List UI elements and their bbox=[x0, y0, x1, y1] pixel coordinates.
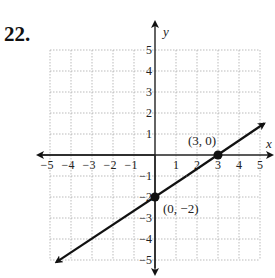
x-tick-label: −2 bbox=[104, 158, 117, 172]
x-tick-label: 5 bbox=[257, 158, 263, 172]
y-tick-label: −1 bbox=[139, 169, 152, 183]
point-marker bbox=[151, 193, 160, 202]
x-tick-label: 1 bbox=[173, 158, 179, 172]
x-tick-label: −1 bbox=[125, 158, 138, 172]
plotted-line bbox=[187, 124, 265, 177]
y-tick-label: 2 bbox=[146, 106, 152, 120]
labeled-points: (3, 0)(0, −2) bbox=[151, 133, 223, 216]
y-tick-label: 5 bbox=[146, 43, 152, 57]
point-label: (0, −2) bbox=[163, 201, 199, 216]
y-axis-label: y bbox=[161, 24, 169, 39]
y-tick-label: −3 bbox=[139, 211, 152, 225]
point-marker bbox=[214, 151, 223, 160]
point-label: (3, 0) bbox=[188, 133, 216, 148]
x-tick-label: −5 bbox=[41, 158, 54, 172]
x-axis-label: x bbox=[265, 136, 272, 151]
y-tick-label: −4 bbox=[139, 232, 152, 246]
x-tick-label: −4 bbox=[62, 158, 75, 172]
x-tick-label: 3 bbox=[215, 158, 221, 172]
coordinate-plane: x y −5−4−3−2−11234554321−1−2−3−4−5 (3, 0… bbox=[0, 0, 275, 278]
x-tick-label: 4 bbox=[236, 158, 242, 172]
y-tick-label: 3 bbox=[146, 85, 152, 99]
y-tick-label: −5 bbox=[139, 253, 152, 267]
y-tick-label: 4 bbox=[146, 64, 152, 78]
plotted-line-lower bbox=[56, 176, 186, 262]
x-tick-label: −3 bbox=[83, 158, 96, 172]
y-tick-label: 1 bbox=[146, 127, 152, 141]
